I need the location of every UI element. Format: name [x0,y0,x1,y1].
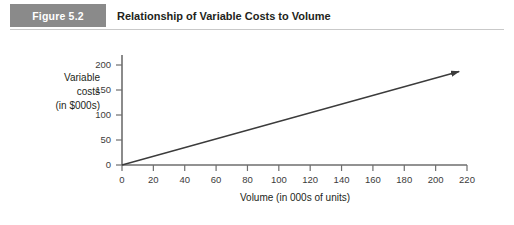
header-divider [10,29,504,30]
figure-title: Relationship of Variable Costs to Volume [117,4,331,27]
y-tick-label-2: 100 [95,109,111,120]
x-tick-label-1: 20 [148,174,159,185]
x-tick-label-7: 140 [334,174,350,185]
x-tick-label-11: 220 [459,174,475,185]
x-tick-label-10: 200 [428,174,444,185]
y-tick-label-4: 200 [95,59,111,70]
variable-cost-line [122,72,459,166]
x-tick-label-5: 100 [271,174,287,185]
x-tick-label-4: 80 [242,174,253,185]
figure-header: Figure 5.2 Relationship of Variable Cost… [0,0,514,31]
x-tick-label-6: 120 [302,174,318,185]
y-tick-label-0: 0 [106,159,111,170]
figure-number-badge: Figure 5.2 [10,4,106,27]
x-tick-label-8: 160 [365,174,381,185]
x-axis-title: Volume (in 000s of units) [240,192,350,203]
y-axis-title: Variable costs (in $000s) [56,72,101,111]
chart-area: 050100150200 020406080100120140160180200… [0,31,514,225]
x-tick-label-0: 0 [119,174,124,185]
y-axis-title-line-2: costs [77,86,100,97]
y-axis-title-line-3: (in $000s) [56,100,100,111]
x-tick-label-9: 180 [396,174,412,185]
x-tick-label-2: 40 [179,174,190,185]
x-tick-label-3: 60 [211,174,222,185]
line-chart: 050100150200 020406080100120140160180200… [0,31,514,225]
x-axis-ticks: 020406080100120140160180200220 [119,165,475,185]
y-axis-title-line-1: Variable [64,72,100,83]
y-tick-label-1: 50 [100,134,111,145]
figure-number-label: Figure 5.2 [32,10,84,22]
